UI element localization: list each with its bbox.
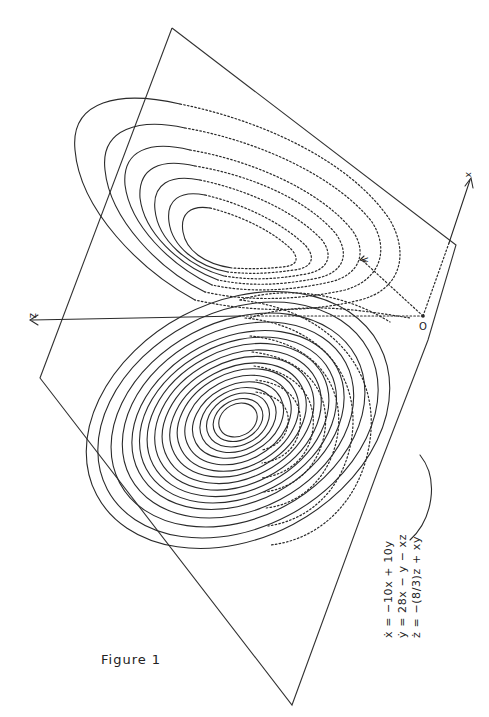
figure-caption: Figure 1 bbox=[101, 652, 161, 667]
equation-y-dot: ẏ = 28x − y − xz bbox=[396, 534, 409, 638]
y-axis-label: y bbox=[361, 257, 371, 263]
origin-label: O bbox=[419, 321, 427, 332]
x-axis-label: x bbox=[464, 172, 474, 178]
lorenz-attractor-diagram: O z y x ẋ = −10x + 10y ẏ = 28x − y − xz … bbox=[0, 0, 489, 717]
upper-lobe-orbits bbox=[75, 98, 400, 309]
z-axis-label: z bbox=[28, 313, 39, 318]
lorenz-equations: ẋ = −10x + 10y ẏ = 28x − y − xz ż = −(8/… bbox=[382, 534, 423, 638]
equation-x-dot: ẋ = −10x + 10y bbox=[382, 540, 395, 638]
attractor-center-hole bbox=[228, 409, 252, 431]
equation-z-dot: ż = −(8/3)z + xy bbox=[410, 536, 423, 638]
